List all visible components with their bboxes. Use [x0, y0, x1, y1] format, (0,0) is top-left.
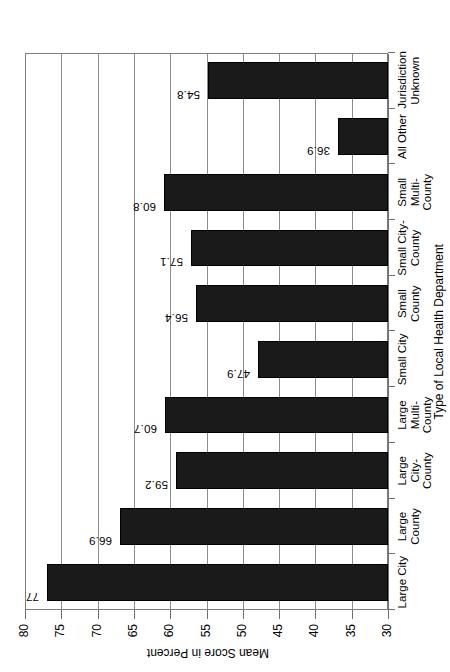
bar-value-label: 60.7: [134, 423, 157, 435]
category-axis-tick: [388, 609, 395, 610]
gridline: [61, 54, 62, 609]
gridline: [388, 54, 389, 609]
bar-value-label: 59.2: [145, 479, 168, 491]
bar: [191, 230, 388, 267]
category-axis-label: Large County: [396, 499, 421, 555]
value-axis-tick: [243, 610, 244, 619]
bar-value-label: 56.4: [165, 312, 188, 324]
value-axis-label: 40: [307, 624, 321, 664]
value-axis-label: 65: [126, 624, 140, 664]
bar: [196, 285, 388, 322]
value-axis-tick: [61, 610, 62, 619]
category-axis-tick: [388, 498, 395, 499]
category-axis-label: Jurisdiction Unknown: [396, 53, 421, 109]
category-axis-tick: [388, 442, 395, 443]
bar: [47, 564, 388, 601]
y-axis-title: Mean Score in Percent: [146, 646, 268, 660]
bar: [165, 397, 388, 434]
value-axis-label: 70: [90, 624, 104, 664]
bar-value-label: 60.8: [133, 201, 156, 213]
category-axis-label: Small City: [396, 332, 409, 388]
bar-chart-figure: 3035404550556065707580 Large CityLarge C…: [0, 0, 450, 672]
value-axis-tick: [134, 610, 135, 619]
bar-value-label: 36.9: [307, 145, 330, 157]
bar: [258, 341, 388, 378]
category-axis-label: Large Multi- County: [396, 387, 434, 443]
value-axis-tick: [352, 610, 353, 619]
bar-value-label: 66.9: [89, 535, 112, 547]
category-axis-label: Small County: [396, 276, 421, 332]
category-axis-tick: [388, 52, 395, 53]
bar: [338, 118, 388, 155]
category-axis-tick: [388, 108, 395, 109]
bar-value-label: 77: [26, 591, 39, 603]
category-axis-tick: [388, 386, 395, 387]
bar-value-label: 57.1: [160, 256, 183, 268]
chart-rotation-wrapper: 3035404550556065707580 Large CityLarge C…: [0, 0, 450, 672]
x-axis-title: Type of Local Health Department: [432, 244, 446, 419]
bar-value-label: 54.8: [177, 89, 200, 101]
category-axis-tick: [388, 163, 395, 164]
value-axis-label: 35: [344, 624, 358, 664]
value-axis-tick: [98, 610, 99, 619]
gridline: [98, 54, 99, 609]
category-axis-tick: [388, 219, 395, 220]
value-axis-label: 75: [53, 624, 67, 664]
value-axis-label: 80: [17, 624, 31, 664]
bar: [208, 62, 388, 99]
category-axis-label: Small City- County: [396, 220, 421, 276]
value-axis-tick: [25, 610, 26, 619]
value-axis-label: 45: [271, 624, 285, 664]
category-axis-label: Large City: [396, 554, 409, 610]
value-axis-label: 30: [380, 624, 394, 664]
value-axis-tick: [388, 610, 389, 619]
category-axis-label: All Other: [396, 109, 409, 165]
category-axis-label: Small Multi- County: [396, 164, 434, 220]
bar: [120, 508, 388, 545]
category-axis-tick: [388, 553, 395, 554]
value-axis-tick: [279, 610, 280, 619]
bar: [176, 452, 388, 489]
bar-value-label: 47.9: [227, 368, 250, 380]
value-axis-tick: [315, 610, 316, 619]
value-axis-tick: [170, 610, 171, 619]
value-axis-tick: [207, 610, 208, 619]
category-axis-tick: [388, 275, 395, 276]
category-axis-label: Large City- County: [396, 443, 434, 499]
category-axis-tick: [388, 331, 395, 332]
bar: [164, 174, 388, 211]
